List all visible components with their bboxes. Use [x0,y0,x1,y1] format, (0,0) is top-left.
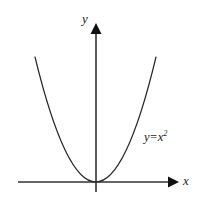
x-axis-label: x [183,174,189,187]
y-axis-label: y [82,12,88,25]
equation-equals-sign: = [150,130,157,144]
parabola-figure: y x y=x2 [0,0,198,211]
equation-left-side: y [144,130,150,144]
y-axis-arrowhead [91,23,102,34]
curve-equation-label: y=x2 [144,131,167,144]
plot-canvas [0,0,198,211]
x-axis-arrowhead [168,177,179,188]
equation-exponent: 2 [163,129,167,138]
